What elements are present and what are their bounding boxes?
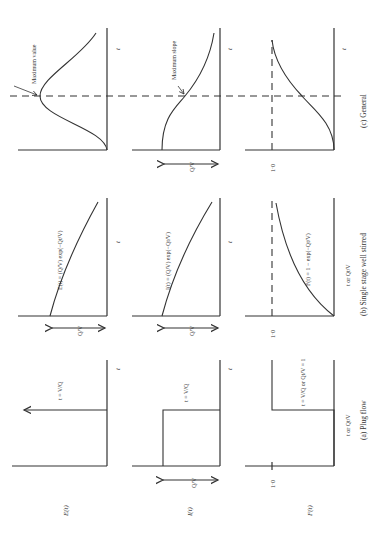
t-label: t xyxy=(114,240,122,243)
t-label: t xyxy=(226,367,234,370)
panel-c-F: 1·0 t (c) General xyxy=(245,28,368,172)
rtd-figure: E(t) I(t) F(t) t = V/Q t Q/V t = V/Q t 1… xyxy=(0,0,384,548)
row-label-F: F(t) xyxy=(306,504,314,517)
peak-curve xyxy=(40,33,107,150)
rotated-frame: E(t) I(t) F(t) t = V/Q t Q/V t = V/Q t 1… xyxy=(10,28,368,517)
sigmoid-curve xyxy=(162,33,214,150)
annotation: t = V/Q or Qt/V = 1 xyxy=(300,358,306,406)
annotation: Maximum value xyxy=(31,44,37,84)
formula: E(t) = (Q/V) exp(−Qt/V) xyxy=(57,230,64,290)
step-curve xyxy=(163,410,220,466)
panel-a-F: 1·0 t = V/Q or Qt/V = 1 t or Qt/V (a) Pl… xyxy=(245,358,368,488)
row-label-E: E(t) xyxy=(62,504,70,517)
max-value-pointer xyxy=(14,86,37,95)
height-label: Q/V xyxy=(77,325,83,336)
sigmoid-curve xyxy=(272,40,334,150)
height-label: Q/V xyxy=(189,161,195,172)
caption-b: (b) Single stage well stirred xyxy=(359,233,368,316)
height-label: Q/V xyxy=(191,477,197,488)
caption-a: (a) Plug flow xyxy=(359,400,368,440)
t-label: t xyxy=(340,47,348,50)
formula: I(t) = (Q/V) exp(−Qt/V) xyxy=(165,232,172,290)
level-label: 1·0 xyxy=(270,330,276,338)
annotation: t = V/Q xyxy=(57,381,63,400)
level-label: 1·0 xyxy=(270,164,276,172)
level-label: 1·0 xyxy=(270,480,276,488)
t-label: t xyxy=(226,240,234,243)
row-label-I: I(t) xyxy=(186,506,194,517)
x-label: t or Qt/V xyxy=(345,264,351,286)
max-slope-pointer xyxy=(178,86,184,94)
annotation: Maximum slope xyxy=(171,40,177,80)
panel-b-I: Q/V I(t) = (Q/V) exp(−Qt/V) t xyxy=(132,198,234,336)
caption-c: (c) General xyxy=(359,94,368,128)
panel-a-E: t = V/Q t xyxy=(12,360,122,466)
height-label: Q/V xyxy=(189,325,195,336)
panel-c-E: Maximum value t xyxy=(14,28,122,150)
panel-a-I: Q/V t = V/Q t xyxy=(132,360,234,488)
t-label: t xyxy=(226,47,234,50)
figure-canvas: E(t) I(t) F(t) t = V/Q t Q/V t = V/Q t 1… xyxy=(0,0,384,548)
t-label: t xyxy=(114,367,122,370)
formula: F(t) = 1 − exp(−Qt/V) xyxy=(305,233,312,286)
panel-c-I: Q/V Maximum slope t xyxy=(132,28,234,172)
panel-b-F: 1·0 F(t) = 1 − exp(−Qt/V) t or Qt/V (b) … xyxy=(245,198,368,338)
annotation: t = V/Q xyxy=(183,383,189,402)
t-label: t xyxy=(114,47,122,50)
x-label: t or Qt/V xyxy=(345,414,351,436)
panel-b-E: Q/V E(t) = (Q/V) exp(−Qt/V) t xyxy=(18,198,122,336)
